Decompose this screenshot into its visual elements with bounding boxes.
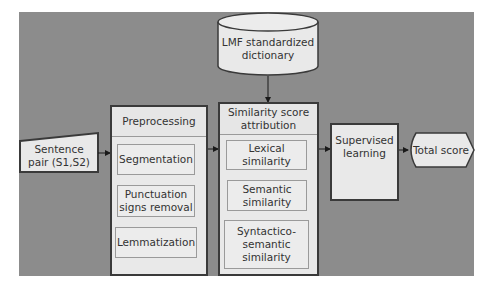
dictionary-line-1: LMF standardized — [222, 36, 314, 49]
similarity-title-line-1: Similarity score — [228, 106, 309, 119]
dictionary-node: LMF standardized dictionary — [218, 34, 318, 64]
total-score-node: Total score — [410, 133, 472, 167]
step-lemmatization: Lemmatization — [115, 227, 197, 258]
similarity-title-line-2: attribution — [241, 119, 296, 132]
syntactico-line-2: semantic — [242, 238, 290, 251]
step-semantic-similarity: Semantic similarity — [227, 180, 307, 211]
preprocessing-group: Preprocessing Segmentation Punctuation s… — [110, 105, 208, 276]
supervised-learning-node: Supervised learning — [330, 123, 399, 201]
semantic-line-1: Semantic — [242, 183, 291, 196]
learning-line-1: Supervised — [335, 134, 394, 147]
similarity-title: Similarity score attribution — [220, 104, 317, 135]
step-lexical-similarity: Lexical similarity — [226, 140, 307, 170]
step-segmentation: Segmentation — [117, 144, 195, 175]
dictionary-line-2: dictionary — [242, 49, 294, 62]
syntactico-line-3: similarity — [242, 251, 290, 264]
step-punctuation-removal: Punctuation signs removal — [117, 185, 195, 217]
step-syntactico-semantic-similarity: Syntactico- semantic similarity — [224, 220, 309, 269]
punctuation-line-1: Punctuation — [125, 188, 188, 201]
lexical-line-2: similarity — [242, 155, 290, 168]
preprocessing-title: Preprocessing — [112, 107, 206, 137]
similarity-group: Similarity score attribution Lexical sim… — [218, 102, 319, 276]
sentence-pair-node: Sentence pair (S1,S2) — [20, 140, 98, 172]
sentence-pair-line-2: pair (S1,S2) — [28, 156, 90, 169]
lexical-line-1: Lexical — [248, 142, 284, 155]
sentence-pair-line-1: Sentence — [34, 143, 83, 156]
syntactico-line-1: Syntactico- — [237, 225, 296, 238]
learning-line-2: learning — [343, 147, 386, 160]
punctuation-line-2: signs removal — [119, 201, 192, 214]
semantic-line-2: similarity — [243, 196, 291, 209]
